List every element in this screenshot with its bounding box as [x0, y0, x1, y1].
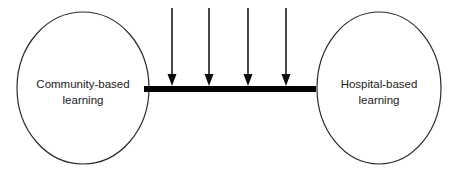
node-hospital-based-learning: Hospital-based learning: [317, 12, 441, 164]
hospital-label-line2: learning: [359, 94, 400, 106]
hospital-label-line1: Hospital-based: [341, 78, 418, 90]
down-arrow-icon-1: [168, 8, 177, 86]
load-arrow-group: [168, 8, 291, 86]
connector-beam-bar: [144, 86, 316, 92]
down-arrow-icon-3: [244, 8, 253, 86]
down-arrow-icon-4: [282, 8, 291, 86]
community-label-line1: Community-based: [36, 78, 129, 90]
down-arrow-icon-2: [205, 8, 214, 86]
diagram-canvas: Community-based learning Hospital-based …: [0, 0, 456, 178]
diagram-svg: Community-based learning Hospital-based …: [0, 0, 456, 178]
node-community-based-learning: Community-based learning: [17, 12, 149, 164]
community-label-line2: learning: [63, 94, 104, 106]
